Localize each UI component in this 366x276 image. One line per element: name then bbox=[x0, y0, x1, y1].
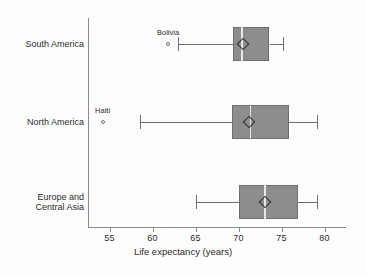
whisker-cap-high bbox=[283, 37, 284, 51]
whisker-low-line bbox=[178, 44, 233, 45]
whisker-cap-high bbox=[317, 115, 318, 129]
x-tick-mark bbox=[282, 228, 283, 232]
x-tick-label: 60 bbox=[133, 233, 173, 243]
whisker-low-line bbox=[140, 122, 232, 123]
x-tick-mark bbox=[325, 228, 326, 232]
boxplot-chart: 556065707580 South AmericaNorth AmericaE… bbox=[0, 0, 366, 276]
x-tick-label: 65 bbox=[176, 233, 216, 243]
x-axis-line bbox=[88, 227, 346, 228]
x-tick-mark bbox=[110, 228, 111, 232]
x-tick-mark bbox=[196, 228, 197, 232]
category-label-line: North America bbox=[0, 117, 84, 127]
outlier-marker bbox=[101, 120, 105, 124]
category-label-1: South America bbox=[0, 39, 84, 49]
whisker-cap-low bbox=[140, 115, 141, 129]
whisker-cap-low bbox=[178, 37, 179, 51]
x-axis-title: Life expectancy (years) bbox=[0, 246, 366, 257]
category-label-2: North America bbox=[0, 117, 84, 127]
box-iqr bbox=[232, 105, 290, 139]
x-tick-label: 80 bbox=[305, 233, 345, 243]
whisker-high-line bbox=[289, 122, 317, 123]
x-tick-mark bbox=[153, 228, 154, 232]
whisker-high-line bbox=[298, 202, 317, 203]
outlier-marker bbox=[166, 42, 170, 46]
whisker-cap-low bbox=[196, 195, 197, 209]
outlier-label: Haiti bbox=[73, 106, 133, 115]
category-label-line: Europe and bbox=[0, 192, 84, 202]
y-axis-line bbox=[88, 18, 89, 227]
category-label-line: Central Asia bbox=[0, 202, 84, 212]
outlier-label: Bolivia bbox=[138, 28, 198, 37]
x-tick-label: 55 bbox=[90, 233, 130, 243]
category-label-3: Europe andCentral Asia bbox=[0, 192, 84, 212]
category-label-line: South America bbox=[0, 39, 84, 49]
whisker-high-line bbox=[270, 44, 284, 45]
whisker-cap-high bbox=[317, 195, 318, 209]
x-tick-label: 70 bbox=[219, 233, 259, 243]
x-tick-mark bbox=[239, 228, 240, 232]
whisker-low-line bbox=[196, 202, 239, 203]
x-tick-label: 75 bbox=[262, 233, 302, 243]
